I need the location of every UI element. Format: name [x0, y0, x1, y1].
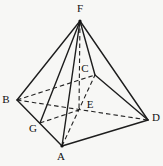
edge-FE-hidden [79, 21, 80, 110]
vertex-label-b: B [2, 94, 9, 105]
pyramid-diagram [0, 0, 163, 166]
vertex-label-a: A [57, 151, 65, 162]
edge-BC-hidden [17, 75, 95, 100]
vertex-label-e: E [87, 99, 94, 110]
vertex-label-c: C [81, 63, 88, 74]
edge-FG [40, 21, 80, 123]
vertex-label-f: F [77, 3, 83, 14]
vertex-label-g: G [29, 123, 37, 134]
edge-AD [62, 120, 148, 146]
edge-GE-hidden [40, 110, 79, 123]
vertex-dot-f [78, 19, 81, 22]
pyramid-diagram-canvas: F B A D C E G [0, 0, 163, 166]
edge-BA [17, 100, 62, 146]
vertex-dot-a [60, 144, 63, 147]
vertex-label-d: D [152, 112, 160, 123]
